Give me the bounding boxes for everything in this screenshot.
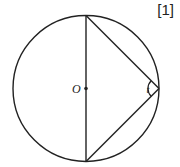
geometry-figure: O t xyxy=(0,0,180,167)
triangle-lower-side xyxy=(86,89,159,162)
triangle-upper-side xyxy=(86,16,159,89)
angle-label: t xyxy=(147,84,150,95)
center-point xyxy=(84,87,88,91)
center-label: O xyxy=(72,82,81,96)
